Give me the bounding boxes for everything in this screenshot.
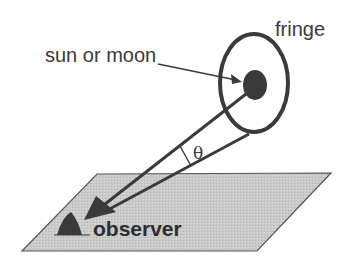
pointer-arrow-line	[158, 64, 236, 80]
sun-or-moon-label: sun or moon	[45, 44, 156, 66]
angle-label: θ	[193, 143, 203, 163]
fringe-label: fringe	[275, 18, 325, 40]
observer-label: observer	[93, 217, 182, 240]
halo-geometry-diagram: θ sun or moon fringe observer	[0, 0, 353, 263]
pointer-arrowhead	[231, 74, 242, 84]
sun-or-moon-disc	[243, 70, 267, 100]
angle-arc	[180, 146, 191, 166]
